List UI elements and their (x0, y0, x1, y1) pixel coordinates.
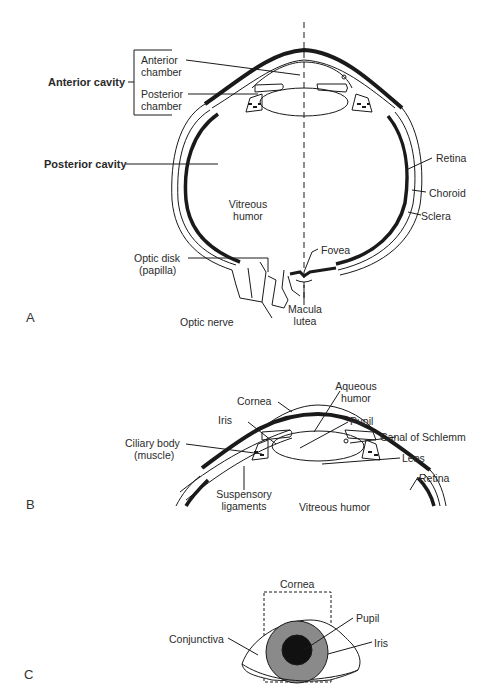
label-c-pupil: Pupil (356, 612, 379, 624)
label-b-ciliary-line2: (muscle) (134, 449, 174, 461)
label-b-lens: Lens (402, 452, 425, 464)
label-b-aqueous-line2: humor (330, 392, 382, 404)
panel-letter-a: A (26, 310, 35, 325)
label-b-vitreous-humor: Vitreous humor (299, 501, 370, 513)
eye-anatomy-figure (0, 0, 496, 688)
label-sclera: Sclera (421, 210, 451, 222)
label-b-cornea: Cornea (237, 395, 271, 407)
leader-anterior-chamber (186, 60, 300, 75)
pupil-circle (282, 635, 312, 665)
label-anterior-chamber-line1: Anterior (141, 54, 178, 66)
label-b-canal-of-schlemm: Canal of Schlemm (380, 431, 466, 443)
label-posterior-cavity: Posterior cavity (44, 158, 127, 170)
leader-fovea (304, 249, 318, 272)
label-anterior-chamber-line2: chamber (141, 66, 182, 78)
label-posterior-chamber-line1: Posterior (141, 88, 183, 100)
label-vitreous-line1: Vitreous (222, 198, 274, 210)
label-macula-line1: Macula (282, 303, 328, 315)
label-fovea: Fovea (321, 244, 350, 256)
label-posterior-chamber-line2: chamber (141, 100, 182, 112)
label-b-pupil: Pupil (350, 415, 373, 427)
label-b-suspensory-line2: ligaments (212, 500, 276, 512)
label-b-suspensory-line1: Suspensory (212, 488, 276, 500)
leader-optic-disk (188, 258, 268, 272)
label-macula-line2: lutea (282, 315, 328, 327)
label-c-cornea: Cornea (280, 578, 314, 590)
label-optic-disk-line1: Optic disk (134, 252, 180, 264)
label-b-aqueous-line1: Aqueous (330, 380, 382, 392)
panel-letter-c: C (24, 667, 33, 682)
lens-b (272, 431, 364, 461)
label-c-conjunctiva: Conjunctiva (169, 633, 224, 645)
label-optic-disk-line2: (papilla) (139, 264, 176, 276)
label-b-ciliary-line1: Ciliary body (125, 437, 180, 449)
label-vitreous-line2: humor (222, 210, 274, 222)
label-retina: Retina (436, 152, 466, 164)
label-choroid: Choroid (429, 187, 466, 199)
label-b-iris: Iris (218, 414, 232, 426)
label-c-iris: Iris (374, 637, 388, 649)
leader-retina (406, 158, 432, 170)
cornea-outer (205, 50, 402, 108)
panel-letter-b: B (26, 497, 35, 512)
leader-optic-nerve (262, 302, 272, 318)
label-anterior-cavity: Anterior cavity (48, 76, 125, 88)
panel-c-front-view (228, 592, 372, 683)
label-optic-nerve: Optic nerve (180, 316, 234, 328)
label-b-retina: Retina (419, 472, 449, 484)
